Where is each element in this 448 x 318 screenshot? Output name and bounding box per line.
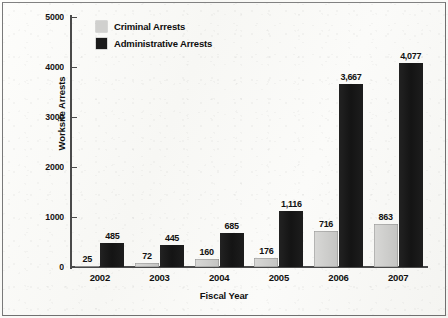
bar-2002-administrative[interactable]: 485	[100, 243, 124, 267]
bar-2003-criminal[interactable]: 72	[135, 263, 159, 267]
bar-value-label: 160	[200, 247, 214, 257]
bar-2007-criminal[interactable]: 863	[374, 224, 398, 267]
x-tick-label-2003: 2003	[130, 272, 190, 283]
bar-2006-administrative[interactable]: 3,667	[339, 84, 363, 267]
y-tick-label-1000: 1000	[29, 211, 64, 222]
chart-page: Criminal Arrests Administrative Arrests …	[0, 0, 448, 318]
x-tick-label-2006: 2006	[309, 272, 369, 283]
bar-2004-administrative[interactable]: 685	[220, 233, 244, 267]
y-tick-label-3000: 3000	[29, 111, 64, 122]
x-tick-label-2002: 2002	[70, 272, 130, 283]
x-tick-label-2004: 2004	[189, 272, 249, 283]
bar-2003-administrative[interactable]: 445	[160, 245, 184, 267]
bar-2005-criminal[interactable]: 176	[254, 258, 278, 267]
bar-value-label: 4,077	[400, 51, 421, 61]
x-tick-label-2007: 2007	[368, 272, 428, 283]
bar-2005-administrative[interactable]: 1,116	[279, 211, 303, 267]
bar-value-label: 25	[83, 254, 92, 264]
bar-2002-criminal[interactable]: 25	[75, 266, 99, 268]
bar-2004-criminal[interactable]: 160	[195, 259, 219, 267]
y-tick-label-4000: 4000	[29, 61, 64, 72]
bar-value-label: 3,667	[340, 72, 361, 82]
bar-2006-criminal[interactable]: 716	[314, 231, 338, 267]
bar-2007-administrative[interactable]: 4,077	[399, 63, 423, 267]
x-axis-title: Fiscal Year	[0, 290, 448, 301]
bar-value-label: 445	[165, 233, 179, 243]
y-tick-label-0: 0	[29, 261, 64, 272]
bar-value-label: 716	[319, 219, 333, 229]
y-tick-0	[70, 267, 77, 268]
y-tick-label-5000: 5000	[29, 11, 64, 22]
bar-value-label: 485	[105, 231, 119, 241]
bar-value-label: 685	[225, 221, 239, 231]
bar-value-label: 863	[379, 212, 393, 222]
plot-area: 25485724451606851761,1167163,6678634,077	[70, 17, 428, 267]
bar-value-label: 176	[259, 246, 273, 256]
bar-value-label: 72	[142, 251, 151, 261]
bar-value-label: 1,116	[281, 199, 302, 209]
x-tick-label-2005: 2005	[249, 272, 309, 283]
y-tick-label-2000: 2000	[29, 161, 64, 172]
